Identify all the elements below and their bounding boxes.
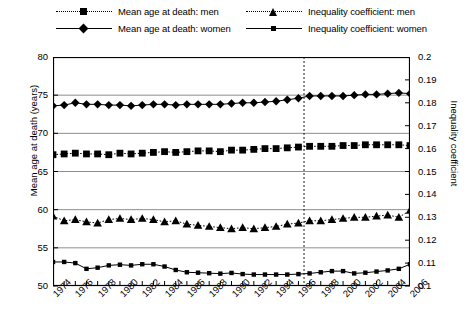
marker-diamond bbox=[317, 92, 325, 100]
legend-marker-triangle-dotted bbox=[246, 6, 302, 18]
marker-small-square bbox=[162, 264, 166, 268]
marker-square bbox=[362, 141, 369, 148]
series-3 bbox=[53, 260, 410, 277]
marker-diamond bbox=[250, 99, 258, 107]
marker-diamond bbox=[60, 101, 68, 109]
marker-diamond bbox=[82, 100, 90, 108]
y-tick-label-right: 0.16 bbox=[418, 144, 448, 154]
legend-item-men-mean-age: Mean age at death: men bbox=[56, 4, 219, 19]
marker-small-square bbox=[129, 263, 133, 267]
legend-label: Mean age at death: men bbox=[118, 4, 219, 19]
marker-triangle bbox=[283, 220, 292, 228]
marker-square bbox=[262, 145, 269, 152]
marker-diamond bbox=[283, 96, 291, 104]
marker-triangle bbox=[194, 221, 203, 229]
marker-square bbox=[150, 149, 157, 156]
marker-diamond bbox=[216, 100, 224, 108]
marker-triangle bbox=[171, 216, 180, 224]
y-tick-label-right: 0.13 bbox=[418, 212, 448, 222]
marker-square bbox=[295, 144, 302, 151]
marker-small-square bbox=[252, 272, 256, 276]
marker-square bbox=[61, 151, 68, 158]
marker-small-square bbox=[397, 267, 401, 271]
marker-square bbox=[284, 144, 291, 151]
legend-label: Mean age at death: women bbox=[118, 21, 231, 36]
legend-item-men-inequality: Inequality coefficient: men bbox=[246, 4, 415, 19]
marker-square bbox=[117, 150, 124, 157]
marker-diamond bbox=[105, 101, 113, 109]
marker-diamond bbox=[395, 89, 403, 97]
marker-diamond bbox=[406, 89, 410, 97]
y-tick-label-right: 0.17 bbox=[418, 121, 448, 131]
legend-marker-square-dotted bbox=[56, 6, 112, 18]
marker-diamond bbox=[205, 100, 213, 108]
marker-diamond bbox=[194, 100, 202, 108]
marker-square bbox=[373, 141, 380, 148]
marker-square bbox=[161, 148, 168, 155]
marker-diamond bbox=[305, 92, 313, 100]
marker-square bbox=[195, 147, 202, 154]
marker-diamond bbox=[261, 98, 269, 106]
marker-square bbox=[384, 141, 391, 148]
chart-figure: Mean age at death: men Inequality coeffi… bbox=[0, 0, 467, 329]
marker-triangle bbox=[272, 222, 281, 230]
marker-small-square bbox=[296, 272, 300, 276]
marker-diamond bbox=[93, 100, 101, 108]
marker-triangle bbox=[138, 214, 147, 222]
y-tick-label-left: 75 bbox=[22, 90, 48, 100]
marker-square bbox=[239, 147, 246, 154]
marker-small-square bbox=[95, 265, 99, 269]
series-1 bbox=[53, 89, 410, 110]
y-tick-label-left: 65 bbox=[22, 167, 48, 177]
marker-square bbox=[128, 151, 135, 158]
marker-triangle bbox=[350, 213, 359, 221]
marker-small-square bbox=[330, 269, 334, 273]
marker-small-square bbox=[185, 270, 189, 274]
plot-area bbox=[53, 57, 410, 286]
marker-square bbox=[407, 142, 410, 149]
marker-small-square bbox=[107, 263, 111, 267]
marker-diamond bbox=[272, 97, 280, 105]
marker-small-square bbox=[240, 272, 244, 276]
marker-small-square bbox=[53, 260, 55, 264]
marker-diamond bbox=[350, 91, 358, 99]
marker-small-square bbox=[408, 262, 410, 266]
marker-small-square bbox=[118, 263, 122, 267]
marker-diamond bbox=[116, 101, 124, 109]
marker-diamond bbox=[160, 100, 168, 108]
marker-square bbox=[228, 147, 235, 154]
marker-diamond bbox=[361, 90, 369, 98]
marker-triangle bbox=[305, 216, 314, 224]
y-tick-label-right: 0.12 bbox=[418, 235, 448, 245]
marker-square bbox=[217, 148, 224, 155]
marker-square bbox=[395, 141, 402, 148]
marker-square bbox=[250, 146, 257, 153]
marker-square bbox=[94, 151, 101, 158]
marker-small-square bbox=[207, 271, 211, 275]
marker-small-square bbox=[140, 262, 144, 266]
marker-small-square bbox=[84, 267, 88, 271]
marker-triangle bbox=[104, 215, 113, 223]
marker-square bbox=[273, 145, 280, 152]
chart-canvas bbox=[53, 57, 410, 287]
marker-square bbox=[306, 143, 313, 150]
marker-small-square bbox=[341, 269, 345, 273]
marker-triangle bbox=[238, 223, 247, 231]
marker-square bbox=[183, 148, 190, 155]
marker-diamond bbox=[71, 99, 79, 107]
marker-diamond bbox=[339, 92, 347, 100]
legend-label: Inequality coefficient: men bbox=[308, 4, 415, 19]
marker-square bbox=[53, 151, 56, 158]
marker-square bbox=[340, 142, 347, 149]
marker-small-square bbox=[374, 269, 378, 273]
marker-square bbox=[105, 151, 112, 158]
marker-small-square bbox=[363, 271, 367, 275]
marker-triangle bbox=[316, 216, 325, 224]
marker-diamond bbox=[53, 102, 57, 110]
marker-small-square bbox=[62, 260, 66, 264]
y-tick-label-right: 0.2 bbox=[418, 52, 448, 62]
marker-small-square bbox=[307, 271, 311, 275]
marker-square bbox=[329, 143, 336, 150]
marker-triangle bbox=[116, 214, 125, 222]
y-tick-label-right: 0.15 bbox=[418, 167, 448, 177]
